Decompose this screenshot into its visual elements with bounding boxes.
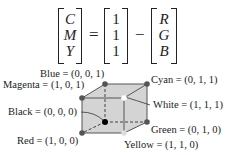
label-magenta: Magenta = (1, 0, 1) [3,79,84,90]
cyan-vertex [144,81,150,87]
green-vertex [144,119,150,125]
red-vertex [79,130,85,136]
label-yellow: Yellow = (1, 1, 0) [124,139,198,150]
magenta-vertex [79,95,85,101]
label-white: White = (1, 1, 1) [153,99,223,110]
label-cyan: Cyan = (0, 1, 1) [151,74,218,85]
black-vertex [102,119,108,125]
label-red: Red = (1, 0, 0) [17,135,78,146]
blue-vertex [102,81,108,87]
white-vertex [121,95,127,101]
label-green: Green = (0, 1, 0) [151,124,221,135]
label-black: Black = (0, 0, 0) [8,106,77,117]
yellow-vertex [121,130,127,136]
label-blue: Blue = (0, 0, 1) [40,68,104,79]
